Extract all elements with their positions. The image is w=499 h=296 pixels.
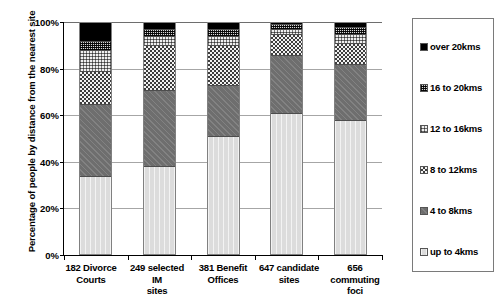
y-tick-label: 80% xyxy=(40,63,59,74)
bar-column[interactable] xyxy=(207,22,240,255)
bar-segment xyxy=(80,42,111,51)
x-axis-labels: 182 DivorceCourts249 selected IMsites381… xyxy=(58,262,388,296)
bar-segment xyxy=(80,105,111,177)
bar-segment xyxy=(271,114,302,255)
bar-segment xyxy=(208,46,239,86)
bar-segment xyxy=(208,30,239,37)
x-tick-mark xyxy=(64,255,65,260)
x-axis-label-line1: 647 candidate xyxy=(256,262,322,274)
bar-column[interactable] xyxy=(143,22,176,255)
legend-label: 8 to 12kms xyxy=(430,164,477,175)
plot-area: 100%80%60%40%20%0% xyxy=(63,22,382,256)
legend-label: 16 to 20kms xyxy=(430,82,482,93)
bar-segment xyxy=(271,35,302,56)
x-tick-mark xyxy=(382,255,383,260)
x-axis-label-line1: 249 selected IM xyxy=(124,262,190,285)
bar-segment xyxy=(335,28,366,35)
y-tick-label: 20% xyxy=(40,203,59,214)
bar-column[interactable] xyxy=(270,22,303,255)
y-tick-label: 100% xyxy=(35,17,59,28)
legend-item[interactable]: up to 4kms xyxy=(420,246,478,257)
bar-segment xyxy=(335,44,366,65)
x-axis-label-line2: Offices xyxy=(190,274,256,286)
legend-swatch-icon xyxy=(420,248,428,256)
bar-segment xyxy=(208,137,239,255)
x-axis-label-line2: foci xyxy=(322,285,388,296)
bar-segment xyxy=(208,86,239,137)
legend-label: 12 to 16kms xyxy=(430,123,482,134)
x-axis-label: 249 selected IMsites xyxy=(124,262,190,296)
x-tick-mark xyxy=(318,255,319,260)
bar-segment xyxy=(335,35,366,44)
legend-label: over 20kms xyxy=(430,41,480,52)
bar-segment xyxy=(80,72,111,105)
legend-item[interactable]: 12 to 16kms xyxy=(420,123,482,134)
bar-segment xyxy=(208,37,239,46)
bar-segment xyxy=(80,23,111,42)
x-tick-mark xyxy=(128,255,129,260)
bar-segment xyxy=(144,91,175,168)
legend-item[interactable]: 8 to 12kms xyxy=(420,164,477,175)
bar-segment xyxy=(335,65,366,121)
legend-items: over 20kms16 to 20kms12 to 16kms8 to 12k… xyxy=(413,19,493,271)
bar-segment xyxy=(80,51,111,72)
x-axis-label-line1: 182 Divorce xyxy=(58,262,124,274)
bar-column[interactable] xyxy=(79,22,112,255)
bar-segment xyxy=(271,56,302,114)
x-axis-label-line2: sites xyxy=(124,285,190,296)
bars-group xyxy=(64,22,382,255)
x-axis-label-line1: 381 Benefit xyxy=(190,262,256,274)
y-axis-title: Percentage of people by distance from th… xyxy=(26,0,37,267)
x-axis-label: 647 candidatesites xyxy=(256,262,322,296)
legend-swatch-icon xyxy=(420,43,428,51)
gridline xyxy=(64,255,382,256)
legend-swatch-icon xyxy=(420,125,428,133)
y-tick-label: 0% xyxy=(45,250,59,261)
bar-segment xyxy=(144,30,175,37)
bar-segment xyxy=(335,121,366,255)
legend-swatch-icon xyxy=(420,207,428,215)
legend-swatch-icon xyxy=(420,166,428,174)
bar-segment xyxy=(144,167,175,255)
legend: over 20kms16 to 20kms12 to 16kms8 to 12k… xyxy=(412,18,494,272)
bar-segment xyxy=(144,23,175,30)
x-axis-label-line1: 656 commuting xyxy=(322,262,388,285)
x-axis-label: 381 BenefitOffices xyxy=(190,262,256,296)
y-tick-label: 60% xyxy=(40,110,59,121)
x-axis-label: 656 commutingfoci xyxy=(322,262,388,296)
legend-item[interactable]: 4 to 8kms xyxy=(420,205,472,216)
bar-column[interactable] xyxy=(334,22,367,255)
bar-segment xyxy=(80,177,111,255)
bar-segment xyxy=(144,37,175,46)
x-axis-label-line2: sites xyxy=(256,274,322,286)
x-tick-mark xyxy=(191,255,192,260)
x-tick-mark xyxy=(255,255,256,260)
legend-label: 4 to 8kms xyxy=(430,205,472,216)
x-axis-label: 182 DivorceCourts xyxy=(58,262,124,296)
legend-label: up to 4kms xyxy=(430,246,478,257)
legend-item[interactable]: over 20kms xyxy=(420,41,480,52)
legend-item[interactable]: 16 to 20kms xyxy=(420,82,482,93)
bar-segment xyxy=(208,23,239,30)
y-tick-label: 40% xyxy=(40,156,59,167)
stacked-bar-chart: Percentage of people by distance from th… xyxy=(0,0,499,296)
x-axis-label-line2: Courts xyxy=(58,274,124,286)
legend-swatch-icon xyxy=(420,84,428,92)
bar-segment xyxy=(144,46,175,90)
